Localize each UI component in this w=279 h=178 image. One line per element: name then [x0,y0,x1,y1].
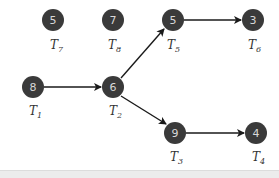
node-weight: 4 [253,127,260,140]
task-graph-canvas: 5 T7 7 T8 5 T5 3 T6 8 T1 [0,0,279,178]
node-weight: 6 [110,81,117,94]
node-weight: 9 [172,127,179,140]
edge-t2-t3 [121,96,166,124]
task-graph-svg: 5 T7 7 T8 5 T5 3 T6 8 T1 [0,0,279,178]
node-label: T8 [108,38,121,54]
node-label: T7 [50,38,64,54]
node-weight: 5 [170,14,177,27]
node-t4: 4 T4 [245,122,267,166]
node-label: T6 [248,38,261,54]
node-label: T1 [29,104,42,120]
node-label: T2 [109,104,122,120]
node-weight: 3 [250,14,257,27]
node-t7: 5 T7 [42,9,64,54]
node-weight: 5 [50,14,57,27]
node-t5: 5 T5 [162,9,184,54]
node-t2: 6 T2 [102,76,124,120]
node-weight: 7 [110,14,117,27]
node-t3: 9 T3 [164,122,186,166]
node-label: T5 [167,38,180,54]
node-weight: 8 [30,81,37,94]
node-label: T4 [252,150,265,166]
node-t8: 7 T8 [102,9,124,54]
edge-t2-t5 [121,29,164,78]
bottom-divider-strip [0,170,279,178]
node-t1: 8 T1 [22,76,44,120]
node-t6: 3 T6 [242,9,264,54]
node-label: T3 [170,150,183,166]
